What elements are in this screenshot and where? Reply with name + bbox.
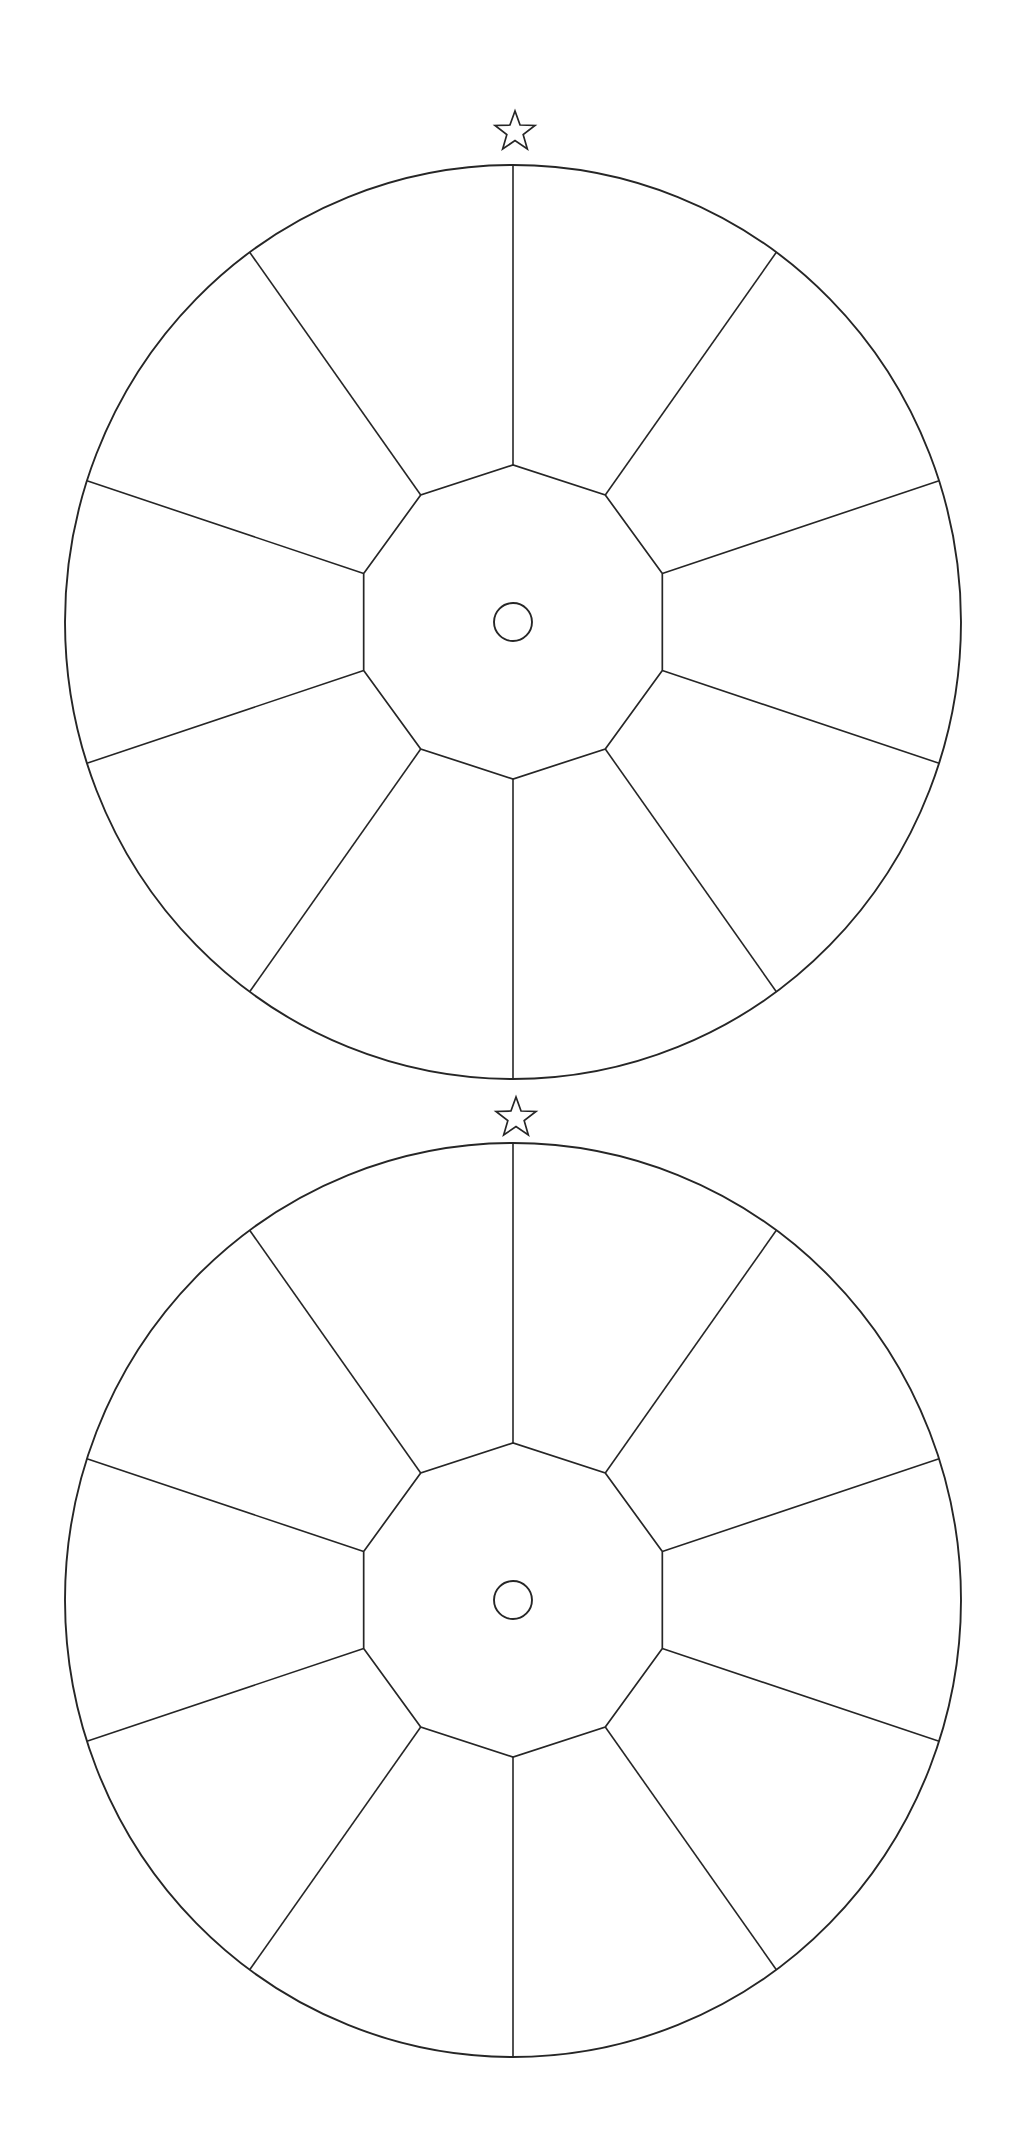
wheel-bottom[interactable] — [65, 1097, 961, 2057]
wheel-axle-hole — [494, 603, 532, 641]
bottom-marker-star-icon — [496, 1097, 536, 1135]
wheel-spoke-4[interactable] — [250, 1230, 421, 1473]
wheel-spoke-7[interactable] — [250, 749, 421, 992]
wheel-axle-hole — [494, 1581, 532, 1619]
wheel-spoke-9[interactable] — [605, 749, 776, 992]
wheel-spoke-10[interactable] — [662, 671, 939, 764]
wheel-spoke-5[interactable] — [87, 1459, 364, 1552]
wheel-spoke-7[interactable] — [250, 1727, 421, 1970]
wheel-spoke-9[interactable] — [605, 1727, 776, 1970]
wheel-top[interactable] — [65, 111, 961, 1079]
worksheet-page — [0, 0, 1030, 2147]
wheel-diagram-canvas — [0, 0, 1030, 2147]
wheel-spoke-1[interactable] — [662, 481, 939, 574]
wheel-spoke-2[interactable] — [605, 1230, 776, 1473]
wheel-spoke-2[interactable] — [605, 252, 776, 495]
wheel-spoke-6[interactable] — [87, 1649, 364, 1742]
wheel-hub-polygon[interactable] — [364, 1443, 663, 1757]
top-marker-star-icon — [495, 111, 535, 149]
wheel-spoke-5[interactable] — [87, 481, 364, 574]
wheel-spoke-1[interactable] — [662, 1459, 939, 1552]
wheel-spoke-4[interactable] — [250, 252, 421, 495]
wheel-spoke-6[interactable] — [87, 671, 364, 764]
wheel-spoke-10[interactable] — [662, 1649, 939, 1742]
wheel-hub-polygon[interactable] — [364, 465, 663, 779]
